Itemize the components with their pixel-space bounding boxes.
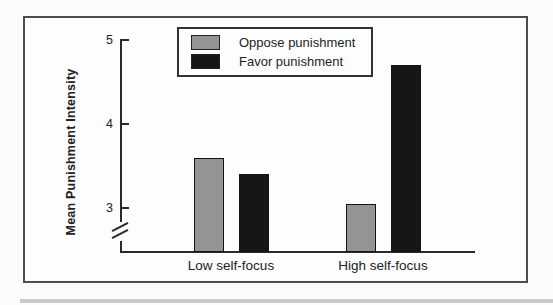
bar-oppose-punishment-low-self-focus	[194, 158, 224, 252]
x-category-label-high-self-focus: High self-focus	[303, 258, 463, 273]
legend-swatch-favor	[191, 54, 220, 69]
y-tick-5	[120, 39, 129, 41]
y-axis-title: Mean Punishment Intensity	[64, 67, 80, 237]
bar-favor-punishment-low-self-focus	[239, 174, 269, 252]
legend-label-favor: Favor punishment	[239, 54, 343, 69]
x-category-label-low-self-focus: Low self-focus	[151, 258, 311, 273]
y-tick-4	[120, 123, 129, 125]
x-axis-line	[120, 251, 475, 253]
figure-canvas: Mean Punishment Intensity 543 Low self-f…	[0, 0, 553, 305]
y-tick-label-4: 4	[91, 116, 113, 132]
y-tick-3	[120, 207, 129, 209]
bar-favor-punishment-high-self-focus	[391, 65, 421, 252]
page-separator-rule	[20, 299, 553, 303]
legend: Oppose punishment Favor punishment	[177, 27, 373, 77]
y-tick-label-3: 3	[91, 200, 113, 216]
bar-oppose-punishment-high-self-focus	[346, 204, 376, 252]
legend-row-oppose: Oppose punishment	[191, 35, 371, 50]
legend-row-favor: Favor punishment	[191, 54, 371, 69]
y-tick-label-5: 5	[91, 32, 113, 48]
figure-frame: Mean Punishment Intensity 543 Low self-f…	[23, 16, 528, 283]
legend-swatch-oppose	[191, 35, 220, 50]
y-axis-line	[120, 40, 122, 222]
legend-label-oppose: Oppose punishment	[239, 35, 355, 50]
